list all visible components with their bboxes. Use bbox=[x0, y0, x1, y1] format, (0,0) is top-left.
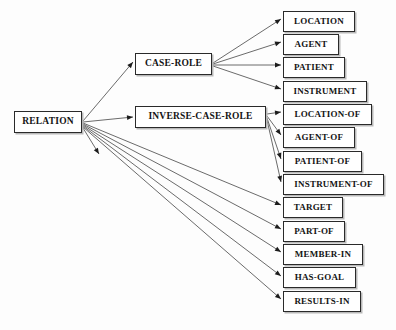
node-label-relation: RELATION bbox=[22, 117, 74, 127]
node-part-of[interactable]: PART-OF bbox=[283, 221, 345, 242]
edge-relation-to-case-role bbox=[83, 62, 133, 121]
node-patient-of[interactable]: PATIENT-OF bbox=[283, 151, 362, 172]
node-label-instrument-of: INSTRUMENT-OF bbox=[294, 179, 372, 188]
arrowhead-icon bbox=[276, 129, 281, 135]
arrowhead-icon bbox=[277, 176, 282, 182]
node-results-in[interactable]: RESULTS-IN bbox=[283, 291, 361, 312]
node-location[interactable]: LOCATION bbox=[283, 11, 355, 32]
node-patient[interactable]: PATIENT bbox=[283, 57, 345, 78]
edge-inverse-case-role-to-agent-of bbox=[267, 116, 281, 135]
node-label-patient-of: PATIENT-OF bbox=[295, 156, 350, 165]
arrowhead-icon bbox=[275, 224, 281, 229]
edge-relation-to-inverse-case-role bbox=[83, 115, 133, 122]
arrowhead-icon bbox=[275, 42, 281, 47]
node-case-role[interactable]: CASE-ROLE bbox=[135, 53, 212, 75]
node-agent-of[interactable]: AGENT-OF bbox=[283, 127, 355, 148]
node-member-in[interactable]: MEMBER-IN bbox=[283, 244, 363, 265]
relation-hierarchy-diagram: RELATIONCASE-ROLEINVERSE-CASE-ROLELOCATI… bbox=[0, 0, 396, 330]
arrowhead-icon bbox=[275, 270, 281, 276]
node-label-agent: AGENT bbox=[294, 39, 327, 48]
edge-relation-to-member-in bbox=[83, 125, 281, 252]
arrowhead-icon bbox=[275, 63, 281, 68]
node-agent[interactable]: AGENT bbox=[283, 34, 339, 55]
node-relation[interactable]: RELATION bbox=[14, 111, 82, 133]
node-label-instrument: INSTRUMENT bbox=[293, 86, 356, 95]
arrowhead-icon bbox=[277, 153, 282, 159]
arrowhead-icon bbox=[275, 247, 281, 252]
node-instrument-of[interactable]: INSTRUMENT-OF bbox=[283, 174, 384, 195]
node-label-agent-of: AGENT-OF bbox=[295, 132, 343, 141]
node-label-location: LOCATION bbox=[294, 16, 344, 25]
node-label-results-in: RESULTS-IN bbox=[294, 296, 349, 305]
node-inverse-case-role[interactable]: INVERSE-CASE-ROLE bbox=[135, 106, 266, 128]
arrowhead-icon bbox=[127, 115, 133, 120]
arrowhead-icon bbox=[275, 85, 281, 90]
arrowhead-icon bbox=[275, 200, 281, 205]
arrowhead-icon bbox=[275, 110, 281, 115]
node-label-case-role: CASE-ROLE bbox=[145, 59, 202, 69]
node-label-target: TARGET bbox=[294, 202, 333, 211]
edge-case-role-to-location bbox=[213, 19, 281, 63]
node-label-member-in: MEMBER-IN bbox=[295, 249, 351, 258]
edge-inverse-case-role-to-location-of bbox=[267, 110, 281, 115]
edge-case-role-to-instrument bbox=[213, 66, 281, 89]
node-instrument[interactable]: INSTRUMENT bbox=[283, 81, 367, 102]
edge-case-role-to-patient bbox=[213, 63, 281, 68]
node-location-of[interactable]: LOCATION-OF bbox=[283, 104, 372, 125]
node-label-location-of: LOCATION-OF bbox=[294, 109, 360, 118]
node-label-patient: PATIENT bbox=[294, 62, 334, 71]
node-has-goal[interactable]: HAS-GOAL bbox=[283, 267, 356, 288]
node-label-has-goal: HAS-GOAL bbox=[295, 272, 345, 281]
edge-relation-to-has-goal bbox=[83, 126, 281, 276]
node-target[interactable]: TARGET bbox=[283, 197, 343, 218]
arrowhead-icon bbox=[275, 19, 281, 24]
edge-relation-to-target bbox=[83, 123, 281, 205]
edge-inverse-case-role-to-instrument-of bbox=[267, 120, 282, 182]
node-label-inverse-case-role: INVERSE-CASE-ROLE bbox=[148, 112, 252, 122]
arrowhead-icon bbox=[94, 148, 99, 154]
edge-case-role-to-agent bbox=[213, 42, 281, 64]
node-label-part-of: PART-OF bbox=[294, 226, 334, 235]
